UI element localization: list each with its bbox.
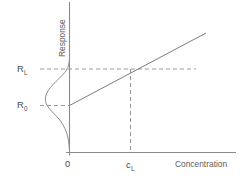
origin-tick-label: 0	[65, 158, 70, 169]
label-r0: R 0	[17, 99, 28, 112]
label-rl-sub: L	[24, 69, 28, 76]
figure-canvas: Response Concentration 0 R L R 0 c L	[0, 0, 240, 178]
label-rl-base: R	[17, 63, 24, 74]
detection-limit-figure: Response Concentration 0 R L R 0 c L	[0, 0, 240, 178]
label-cl-sub: L	[131, 165, 135, 172]
blank-distribution-curve	[45, 59, 69, 151]
label-r0-sub: 0	[24, 105, 28, 112]
label-rl: R L	[17, 63, 28, 76]
label-r0-base: R	[17, 99, 24, 110]
label-cl: c L	[126, 159, 135, 172]
x-axis-label: Concentration	[175, 159, 227, 169]
y-axis-label: Response	[57, 19, 67, 57]
